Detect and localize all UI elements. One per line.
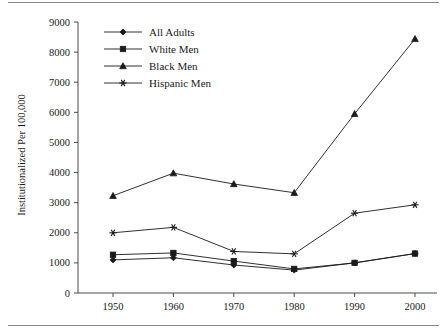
y-tick-label: 2000 [49, 227, 70, 238]
data-point-marker [412, 251, 417, 256]
data-point-marker [119, 80, 126, 86]
data-point-marker [171, 250, 176, 255]
chart-legend: All AdultsWhite MenBlack MenHispanic Men [104, 26, 212, 89]
y-tick-label: 9000 [49, 17, 70, 28]
x-tick-label: 1970 [223, 301, 244, 312]
series-white-men [110, 250, 417, 271]
series-hispanic-men [109, 202, 418, 257]
series-line [113, 254, 415, 271]
y-tick-label: 1000 [49, 257, 70, 268]
data-point-marker [231, 258, 236, 263]
x-axis-ticks: 195019601970198019902000 [103, 293, 426, 312]
x-tick-label: 1980 [284, 301, 305, 312]
y-tick-label: 6000 [49, 107, 70, 118]
y-tick-label: 5000 [49, 137, 70, 148]
figure-container: Institutionalized Per 100,000 0100020003… [0, 0, 447, 334]
legend-item-hispanic-men[interactable]: Hispanic Men [104, 77, 212, 89]
data-point-marker [352, 260, 357, 265]
legend-item-black-men[interactable]: Black Men [104, 60, 198, 72]
data-point-marker [110, 252, 115, 257]
y-tick-label: 0 [65, 288, 70, 299]
y-tick-label: 7000 [49, 77, 70, 88]
legend-item-white-men[interactable]: White Men [104, 43, 199, 55]
y-axis-label: Institutionalized Per 100,000 [16, 94, 27, 216]
series-line [113, 205, 415, 254]
x-tick-label: 1960 [163, 301, 184, 312]
data-point-marker [110, 192, 117, 198]
y-tick-label: 4000 [49, 167, 70, 178]
data-point-marker [170, 224, 177, 230]
line-chart: Institutionalized Per 100,000 0100020003… [0, 0, 447, 334]
data-point-marker [120, 29, 126, 35]
legend-label: Hispanic Men [149, 77, 212, 89]
data-point-marker [170, 170, 177, 176]
legend-item-all-adults[interactable]: All Adults [104, 26, 195, 38]
plot-area: Institutionalized Per 100,000 0100020003… [0, 0, 447, 334]
x-tick-label: 1950 [103, 301, 124, 312]
x-tick-label: 1990 [344, 301, 365, 312]
data-point-marker [292, 266, 297, 271]
series-line [113, 253, 415, 269]
legend-label: Black Men [149, 60, 198, 72]
legend-label: White Men [149, 43, 199, 55]
y-axis-ticks: 0100020003000400050006000700080009000 [49, 17, 78, 299]
y-tick-label: 3000 [49, 197, 70, 208]
data-point-marker [109, 230, 116, 236]
y-tick-label: 8000 [49, 47, 70, 58]
data-point-marker [412, 36, 419, 42]
series-all-adults [110, 251, 418, 274]
legend-label: All Adults [149, 26, 195, 38]
x-tick-label: 2000 [405, 301, 426, 312]
data-point-marker [411, 202, 418, 208]
data-point-marker [230, 248, 237, 254]
data-point-marker [120, 46, 125, 51]
